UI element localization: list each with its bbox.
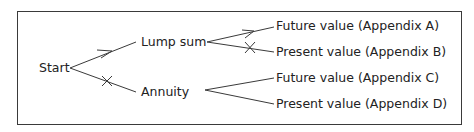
edge-start-lumpsum xyxy=(70,42,136,68)
edge-annuity-fvC xyxy=(205,78,274,90)
edge-lumpsum-fvA xyxy=(207,27,274,42)
node-present-value-b: Present value (Appendix B) xyxy=(276,45,446,59)
edge-lumpsum-pvB xyxy=(207,42,274,52)
edge-start-annuity xyxy=(70,68,136,92)
edge-annuity-pvD xyxy=(205,90,274,104)
node-annuity: Annuity xyxy=(141,85,189,99)
node-future-value-c: Future value (Appendix C) xyxy=(276,71,439,85)
node-present-value-d: Present value (Appendix D) xyxy=(276,97,447,111)
node-lump-sum: Lump sum xyxy=(141,35,206,49)
node-start: Start xyxy=(39,61,70,75)
node-future-value-a: Future value (Appendix A) xyxy=(276,19,439,33)
